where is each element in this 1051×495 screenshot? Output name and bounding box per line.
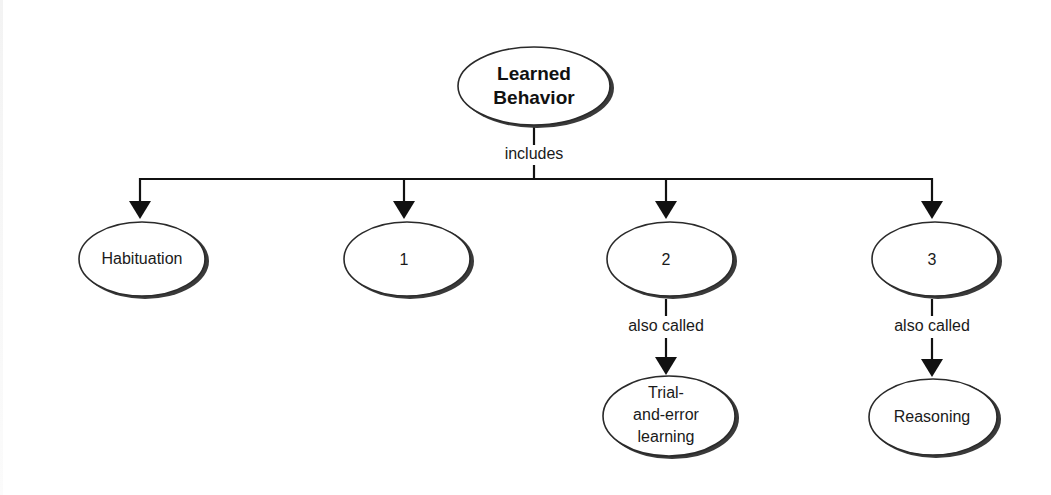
link-label-includes: includes: [505, 145, 564, 162]
node-label: 3: [928, 251, 937, 268]
node-label-line2: Behavior: [493, 87, 575, 108]
node-label-line1: Trial-: [648, 384, 684, 401]
link-label-also-called-2: also called: [628, 317, 704, 334]
arrow-down-icon: [655, 201, 677, 219]
arrow-down-icon: [393, 201, 415, 219]
node-label: Reasoning: [894, 408, 971, 425]
arrow-down-icon: [129, 201, 151, 219]
node-label: 1: [400, 251, 409, 268]
concept-map-diagram: includes also called also called Learned…: [0, 0, 1051, 495]
node-label: Habituation: [102, 250, 183, 267]
link-label-also-called-3: also called: [894, 317, 970, 334]
node-reasoning: Reasoning: [869, 379, 1001, 458]
node-label: 2: [662, 251, 671, 268]
arrow-down-icon: [921, 359, 943, 377]
arrow-down-icon: [921, 201, 943, 219]
connectors: [129, 126, 943, 377]
node-blank-1: 1: [344, 222, 474, 299]
node-trial-and-error-learning: Trial- and-error learning: [603, 376, 739, 459]
node-ellipse: [458, 47, 610, 125]
node-label-line2: and-error: [633, 406, 699, 423]
node-habituation: Habituation: [79, 222, 209, 299]
arrow-down-icon: [655, 357, 677, 375]
node-learned-behavior: Learned Behavior: [458, 47, 614, 128]
node-label-line3: learning: [638, 428, 695, 445]
node-label-line1: Learned: [497, 63, 571, 84]
node-blank-2: 2: [607, 222, 737, 299]
node-blank-3: 3: [872, 222, 1002, 299]
